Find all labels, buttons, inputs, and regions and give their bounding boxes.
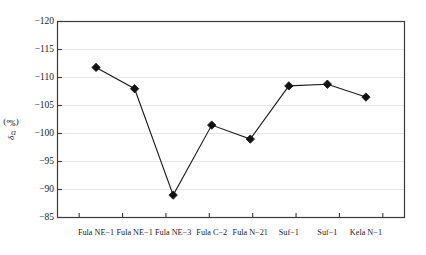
data-point-marker (208, 121, 216, 129)
x-axis-tick-label: Suf−1 (317, 228, 337, 238)
data-point-marker (362, 93, 370, 101)
data-point-marker (285, 82, 293, 90)
data-point-marker (169, 191, 177, 199)
chart-container: δD(‰) −120−115−110−105−100−95−90−85 Fula… (0, 0, 426, 255)
plot-frame (58, 22, 405, 218)
plot-area (0, 0, 426, 255)
x-axis-tick-label: Kela N−1 (350, 228, 382, 238)
data-point-marker (246, 135, 254, 143)
x-axis-tick-label: Fula N−21 (233, 228, 268, 238)
x-axis-tick-label: Fula NE−1 (78, 228, 114, 238)
gridlines (58, 50, 404, 190)
data-point-marker (92, 63, 100, 71)
x-axis-tick-label: Fula NE−3 (155, 228, 191, 238)
data-point-markers (92, 63, 370, 199)
x-axis-tick-label: Suf−1 (279, 228, 299, 238)
data-point-marker (130, 85, 138, 93)
x-axis-tick-marks (79, 213, 383, 218)
x-axis-tick-label: Fula NE−1 (116, 228, 152, 238)
data-point-marker (323, 80, 331, 88)
x-axis-tick-label: Fula C−2 (196, 228, 227, 238)
y-axis-tick-marks (58, 22, 63, 218)
